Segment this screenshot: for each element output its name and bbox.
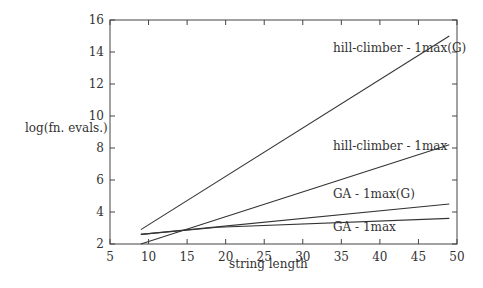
x-tick-label: 45 (411, 250, 426, 264)
x-axis-title: string length (229, 257, 308, 271)
series-label-hill-climber-1max-g: hill-climber - 1max(G) (333, 41, 466, 55)
y-tick-label: 2 (96, 237, 104, 251)
x-tick-label: 35 (334, 250, 349, 264)
x-tick-label: 40 (372, 250, 387, 264)
y-tick-label: 6 (96, 173, 104, 187)
y-axis-title: log(fn. evals.) (25, 121, 108, 135)
series-label-ga-1max: GA - 1max (333, 220, 396, 234)
y-tick-label: 14 (89, 45, 105, 59)
series-label-hill-climber-1max: hill-climber - 1max (333, 139, 447, 153)
y-tick-label: 16 (89, 13, 104, 27)
x-tick-label: 15 (179, 250, 194, 264)
series-line-3 (141, 218, 449, 234)
x-tick-label: 5 (106, 250, 114, 264)
x-tick-label: 10 (141, 250, 156, 264)
series-label-ga-1max-g: GA - 1max(G) (333, 187, 415, 201)
y-tick-label: 12 (89, 77, 104, 91)
x-tick-label: 50 (449, 250, 464, 264)
y-tick-label: 8 (96, 141, 104, 155)
y-tick-label: 4 (96, 205, 104, 219)
